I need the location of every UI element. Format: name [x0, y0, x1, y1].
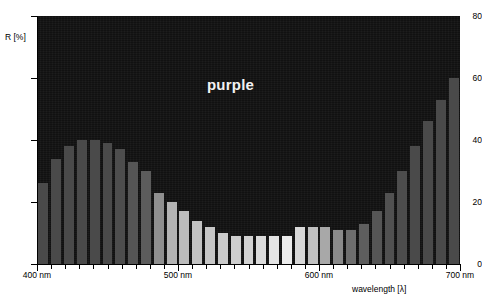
y-tick-label: 40 — [456, 136, 482, 144]
bar — [90, 140, 100, 264]
x-minor-tick-mark — [206, 265, 207, 269]
x-minor-tick-mark — [122, 265, 123, 269]
x-tick-label: 600 nm — [305, 270, 333, 280]
x-minor-tick-mark — [291, 265, 292, 269]
x-minor-tick-mark — [192, 265, 193, 269]
y-tick-mark — [31, 202, 37, 203]
plot-area: purple — [37, 16, 460, 264]
x-minor-tick-mark — [51, 265, 52, 269]
x-minor-tick-mark — [263, 265, 264, 269]
x-minor-tick-mark — [220, 265, 221, 269]
x-axis-title: wavelength [λ] — [352, 284, 406, 294]
x-minor-tick-mark — [249, 265, 250, 269]
series-annotation-label: purple — [207, 76, 254, 93]
bar — [205, 227, 215, 264]
x-minor-tick-mark — [404, 265, 405, 269]
bar — [295, 227, 305, 264]
y-tick-mark — [31, 140, 37, 141]
x-minor-tick-mark — [136, 265, 137, 269]
bar — [410, 146, 420, 264]
reflectance-spectrum-figure: purple 020406080 400 nm500 nm600 nm700 n… — [0, 0, 482, 302]
x-tick-label: 700 nm — [446, 270, 474, 280]
bar — [320, 227, 330, 264]
x-minor-tick-mark — [418, 265, 419, 269]
y-axis-title: R [%] — [5, 32, 26, 42]
x-minor-tick-mark — [347, 265, 348, 269]
x-minor-tick-mark — [305, 265, 306, 269]
bar — [423, 121, 433, 264]
x-minor-tick-mark — [93, 265, 94, 269]
bar — [231, 236, 241, 264]
bar — [154, 193, 164, 264]
x-minor-tick-mark — [432, 265, 433, 269]
x-minor-tick-mark — [234, 265, 235, 269]
bar — [51, 159, 61, 264]
bar — [244, 236, 254, 264]
bar — [333, 230, 343, 264]
x-minor-tick-mark — [79, 265, 80, 269]
x-tick-label: 400 nm — [23, 270, 51, 280]
bar — [256, 236, 266, 264]
bar — [64, 146, 74, 264]
bar — [128, 162, 138, 264]
x-tick-label: 500 nm — [164, 270, 192, 280]
bar — [359, 224, 369, 264]
bar — [436, 100, 446, 264]
y-tick-label: 60 — [456, 74, 482, 82]
bar — [218, 233, 228, 264]
bar — [167, 202, 177, 264]
bar — [141, 171, 151, 264]
x-minor-tick-mark — [390, 265, 391, 269]
bar — [38, 183, 48, 264]
bar — [179, 211, 189, 264]
x-minor-tick-mark — [446, 265, 447, 269]
bar — [346, 230, 356, 264]
x-minor-tick-mark — [164, 265, 165, 269]
bar — [397, 171, 407, 264]
x-minor-tick-mark — [108, 265, 109, 269]
x-minor-tick-mark — [150, 265, 151, 269]
bar — [269, 236, 279, 264]
y-tick-label: 80 — [456, 12, 482, 20]
y-axis-line — [37, 16, 38, 265]
bar — [308, 227, 318, 264]
bar — [282, 236, 292, 264]
y-tick-label: 20 — [456, 198, 482, 206]
x-minor-tick-mark — [277, 265, 278, 269]
bar — [449, 78, 459, 264]
bar — [77, 140, 87, 264]
bar-series — [37, 16, 460, 264]
bar — [115, 149, 125, 264]
y-tick-mark — [31, 16, 37, 17]
bar — [385, 193, 395, 264]
bar — [192, 221, 202, 264]
x-minor-tick-mark — [361, 265, 362, 269]
bar — [372, 211, 382, 264]
y-tick-mark — [31, 78, 37, 79]
x-minor-tick-mark — [333, 265, 334, 269]
bar — [103, 143, 113, 264]
x-minor-tick-mark — [375, 265, 376, 269]
x-minor-tick-mark — [65, 265, 66, 269]
